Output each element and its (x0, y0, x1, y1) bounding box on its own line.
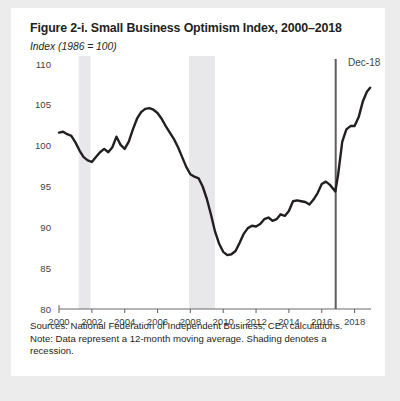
y-axis-tick-label: 110 (36, 59, 51, 70)
y-axis-tick-label: 90 (40, 222, 51, 233)
recession-shading-group (79, 56, 215, 309)
data-note: Note: Data represent a 12-month moving a… (30, 333, 370, 358)
figure-card: Figure 2-i. Small Business Optimism Inde… (11, 8, 385, 376)
recession-band (79, 56, 91, 309)
chart-plot-area: 2000200220042006200820102012201420162018… (11, 56, 385, 326)
figure-notes: Sources: National Federation of Independ… (30, 320, 370, 358)
y-axis-tick-label: 95 (40, 181, 51, 192)
line-chart-svg: 2000200220042006200820102012201420162018… (11, 56, 385, 326)
y-axis-tick-label: 105 (35, 99, 51, 110)
y-axis-tick-label: 85 (40, 263, 51, 274)
chart-annotation-labels: ElectionDec-18 (318, 56, 381, 68)
y-axis-tick-label: 80 (40, 304, 51, 315)
y-axis-tick-labels: 80859095100105110 (35, 59, 51, 315)
sources-note: Sources: National Federation of Independ… (30, 320, 370, 333)
y-axis-tick-label: 100 (35, 140, 51, 151)
page-title: Figure 2-i. Small Business Optimism Inde… (30, 21, 342, 35)
y-axis-units-label: Index (1986 = 100) (30, 41, 117, 52)
recession-band (189, 56, 215, 309)
last-point-annotation-label: Dec-18 (348, 57, 381, 68)
x-axis-ticks (59, 309, 355, 313)
